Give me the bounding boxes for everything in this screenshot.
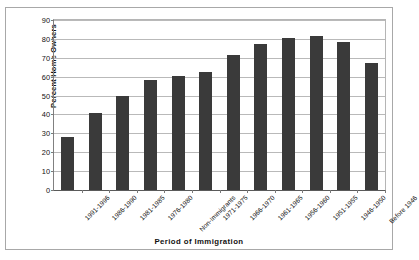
x-tick-mark	[109, 190, 110, 193]
plot-area: 0102030405060708090	[53, 19, 386, 191]
x-tick-mark	[82, 190, 83, 193]
x-tick-label: 1961-1965	[276, 194, 304, 222]
y-tick-label: 20	[42, 148, 50, 157]
y-tick-label: 90	[42, 16, 50, 25]
x-tick-label: 1976-1980	[166, 194, 194, 222]
y-tick-label: 50	[42, 91, 50, 100]
y-tick-mark	[51, 190, 54, 191]
x-tick-label: 1981-1985	[138, 194, 166, 222]
bar	[337, 42, 350, 190]
x-tick-label: 1986-1990	[111, 194, 139, 222]
bar	[144, 80, 157, 191]
y-tick-label: 10	[42, 167, 50, 176]
bar	[227, 55, 240, 190]
x-tick-mark	[192, 190, 193, 193]
chart-frame: Percent Home Owners 0102030405060708090 …	[5, 7, 393, 250]
y-tick-label: 80	[42, 34, 50, 43]
x-tick-label: 1966-1970	[249, 194, 277, 222]
y-tick-label: 0	[46, 186, 50, 195]
bar	[172, 76, 185, 190]
bar	[61, 137, 74, 190]
y-tick-label: 30	[42, 129, 50, 138]
x-tick-mark	[137, 190, 138, 193]
bar	[199, 72, 212, 190]
x-axis-title: Period of Immigration	[6, 237, 392, 246]
bar	[116, 96, 129, 190]
x-tick-label: Before 1946	[388, 194, 419, 225]
bar	[365, 63, 378, 190]
x-tick-label: 1956-1960	[304, 194, 332, 222]
y-tick-label: 60	[42, 72, 50, 81]
x-tick-mark	[357, 190, 358, 193]
bar	[310, 36, 323, 190]
x-tick-mark	[164, 190, 165, 193]
bar	[89, 113, 102, 190]
x-tick-mark	[302, 190, 303, 193]
bar	[282, 38, 295, 190]
x-tick-label: 1946-1950	[359, 194, 387, 222]
x-tick-mark	[275, 190, 276, 193]
x-tick-label: 1951-1955	[331, 194, 359, 222]
x-tick-mark	[220, 190, 221, 193]
cropped-title-sliver: ........ ............ ..... .... ..... .…	[0, 0, 401, 6]
y-tick-label: 40	[42, 110, 50, 119]
x-tick-mark	[385, 190, 386, 193]
y-tick-label: 70	[42, 53, 50, 62]
x-tick-mark	[330, 190, 331, 193]
x-tick-mark	[247, 190, 248, 193]
bar-series	[54, 20, 385, 190]
bar	[254, 44, 267, 190]
x-tick-label: 1991-1996	[83, 194, 111, 222]
